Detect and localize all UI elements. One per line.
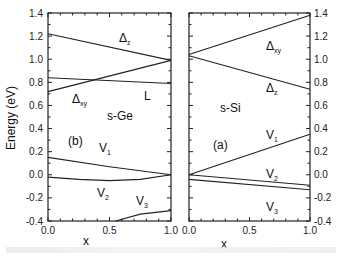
y-tick-label: 1.0: [314, 54, 328, 65]
series-line: [48, 78, 171, 84]
y-axis-label: Energy (eV): [4, 86, 18, 150]
left-v2-label: V2: [97, 186, 109, 201]
y-tick-label: 0.2: [314, 146, 328, 157]
series-line: [189, 56, 310, 90]
series-line: [48, 157, 171, 174]
y-tick-label: 1.2: [29, 31, 43, 42]
x-tick-label: 0.5: [243, 225, 257, 236]
y-tick-label: 1.2: [314, 31, 328, 42]
y-tick-label: 0.0: [314, 169, 328, 180]
x-axis-label-left: x: [83, 234, 89, 248]
y-tick-label: 0.8: [29, 77, 43, 88]
series-line: [189, 175, 310, 185]
right-delta-xy-label: Δxy: [266, 39, 282, 55]
series-line: [48, 175, 171, 181]
left-l-label: L: [144, 89, 151, 103]
band-energy-chart: -0.4-0.20.00.20.40.60.81.01.21.40.00.51.…: [0, 0, 344, 259]
plot-frame: [189, 13, 310, 221]
x-tick-label: 0.0: [41, 225, 55, 236]
y-tick-label: 0.2: [29, 146, 43, 157]
right-v2-label: V2: [266, 167, 278, 182]
right-v1-label: V1: [266, 128, 278, 143]
right-panel-s-si: -0.4-0.20.00.20.40.60.81.01.21.40.00.51.…: [182, 8, 332, 237]
y-tick-label: -0.2: [314, 192, 332, 203]
y-tick-label: 0.8: [314, 77, 328, 88]
left-delta-xy-label: Δxy: [72, 92, 88, 108]
left-v3-label: V3: [136, 194, 148, 209]
y-tick-label: 0.4: [314, 123, 328, 134]
series-line: [116, 211, 171, 221]
figure-caption: [6, 247, 336, 253]
left-panel-s-ge: -0.4-0.20.00.20.40.60.81.01.21.40.00.51.…: [26, 8, 179, 237]
y-tick-label: -0.2: [26, 192, 44, 203]
left-panel-label: (b): [68, 134, 83, 148]
series-line: [189, 134, 310, 175]
right-delta-z-label: Δz: [266, 81, 278, 96]
y-tick-label: 0.6: [29, 100, 43, 111]
left-delta-z-label: Δz: [119, 31, 131, 46]
y-tick-label: 1.4: [29, 8, 43, 19]
y-tick-label: 1.4: [314, 8, 328, 19]
x-tick-label: 0.0: [182, 225, 196, 236]
x-tick-label: 1.0: [303, 225, 317, 236]
y-tick-label: 0.0: [29, 169, 43, 180]
y-tick-label: 0.4: [29, 123, 43, 134]
x-tick-label: 1.0: [164, 225, 178, 236]
right-material-label: s-Si: [220, 101, 241, 115]
series-line: [189, 15, 310, 54]
y-tick-label: 0.6: [314, 100, 328, 111]
right-v3-label: V3: [266, 200, 278, 215]
series-line: [189, 179, 310, 189]
x-tick-label: 0.5: [103, 225, 117, 236]
y-tick-label: 1.0: [29, 54, 43, 65]
series-line: [48, 34, 171, 61]
right-panel-label: (a): [213, 138, 228, 152]
left-material-label: s-Ge: [107, 109, 133, 123]
series-line: [48, 60, 171, 91]
left-v1-label: V1: [99, 141, 111, 156]
